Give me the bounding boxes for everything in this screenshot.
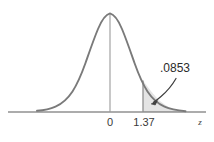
tail-area-annotation-label: .0853	[160, 62, 190, 74]
normal-distribution-figure: 0 1.37 z .0853	[0, 0, 214, 142]
tick-label-z-value: 1.37	[127, 117, 161, 128]
tick-label-mean: 0	[100, 117, 120, 128]
x-axis-variable-label: z	[192, 118, 208, 127]
